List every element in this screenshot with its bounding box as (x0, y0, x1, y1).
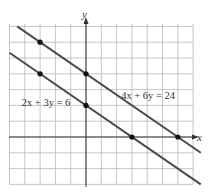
y-axis-label: y (81, 8, 87, 20)
data-point (38, 71, 43, 76)
data-point (38, 40, 43, 45)
line-graph: x y 4x + 6y = 24 2x + 3y = 6 (0, 0, 212, 195)
data-point (83, 71, 88, 76)
data-point (175, 134, 180, 139)
data-point (83, 103, 88, 108)
data-point (129, 134, 134, 139)
line1-equation-label: 4x + 6y = 24 (121, 90, 176, 101)
x-axis-label: x (196, 131, 202, 143)
line2-equation-label: 2x + 3y = 6 (22, 97, 71, 108)
